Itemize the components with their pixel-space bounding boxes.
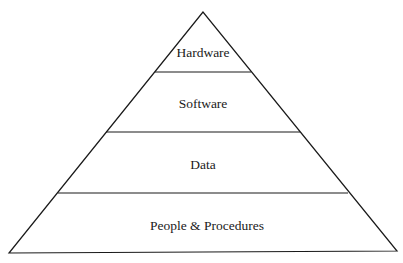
pyramid-diagram: Hardware Software Data People & Procedur… (0, 0, 403, 263)
tier-label-data: Data (190, 157, 215, 172)
tier-label-people-procedures: People & Procedures (150, 218, 264, 233)
tier-label-hardware: Hardware (176, 45, 229, 60)
tier-label-software: Software (179, 96, 228, 111)
